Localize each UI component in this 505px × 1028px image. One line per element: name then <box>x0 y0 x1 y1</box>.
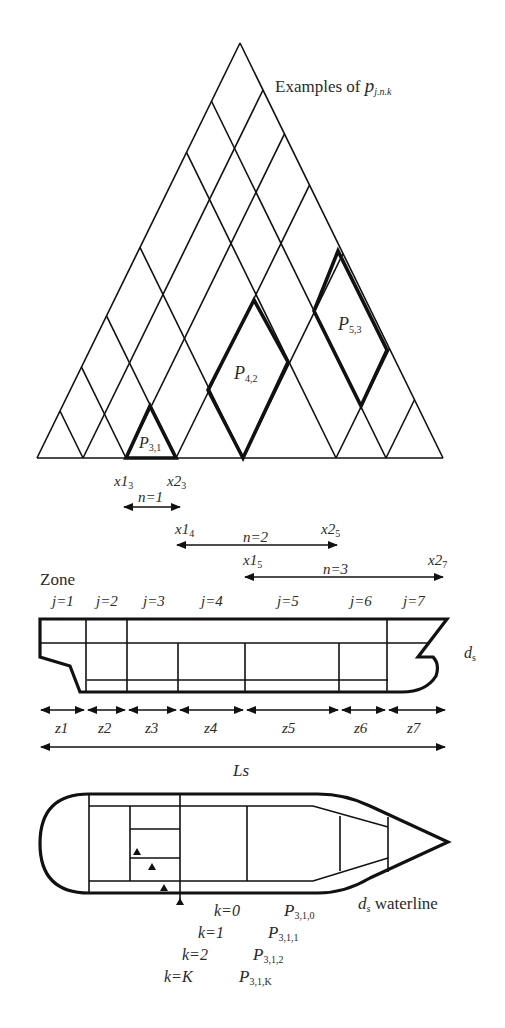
x2-7-label: x27 <box>428 553 447 570</box>
draft-label-side: ds <box>464 645 476 663</box>
ship-plan-view <box>40 794 448 903</box>
z1-label: z1 <box>55 721 68 736</box>
p312-label: P3,1,2 <box>253 946 283 965</box>
n3-label: n=3 <box>323 562 348 577</box>
x2-5-label: x25 <box>321 522 340 539</box>
label-p53: P5,3 <box>338 315 362 335</box>
x1-5-label: x15 <box>243 553 262 570</box>
p311-label: P3,1,1 <box>268 924 298 943</box>
waterline-label: ds waterline <box>358 895 438 914</box>
j3-label: j=3 <box>143 594 165 609</box>
triangle-marker-k1 <box>133 848 141 855</box>
j1-label: j=1 <box>52 594 74 609</box>
damage-penetration-markers <box>133 848 184 905</box>
x1-3-label: x13 <box>114 474 133 491</box>
j6-label: j=6 <box>350 594 372 609</box>
k1-label: k=1 <box>198 925 224 941</box>
z2-label: z2 <box>98 721 111 736</box>
j4-label: j=4 <box>201 594 223 609</box>
j5-label: j=5 <box>277 594 299 609</box>
z5-label: z5 <box>282 721 295 736</box>
j7-label: j=7 <box>403 594 425 609</box>
x2-3-label: x23 <box>167 474 186 491</box>
k2-label: k=2 <box>182 947 208 963</box>
ship-side-profile <box>40 619 447 692</box>
x1-4-label: x14 <box>175 522 194 539</box>
j2-label: j=2 <box>96 594 118 609</box>
k0-label: k=0 <box>214 903 240 919</box>
ship-length-label: Ls <box>233 762 249 779</box>
kK-label: k=K <box>164 969 193 985</box>
triangle-marker-k0 <box>176 898 184 905</box>
n2-label: n=2 <box>243 530 268 545</box>
zone-title: Zone <box>40 571 75 588</box>
label-p42: P4,2 <box>234 364 258 384</box>
p31K-label: P3,1,K <box>239 968 272 987</box>
p310-label: P3,1,0 <box>284 902 314 921</box>
triangle-marker-k2 <box>148 863 156 870</box>
label-p31: P3,1 <box>139 435 161 453</box>
diagram-title: Examples of pj.n.k <box>275 76 391 97</box>
z4-label: z4 <box>204 721 217 736</box>
triangle-marker-k3 <box>160 884 168 891</box>
z6-label: z6 <box>354 721 367 736</box>
probability-triangle <box>0 0 505 470</box>
z3-label: z3 <box>145 721 158 736</box>
z7-label: z7 <box>407 721 420 736</box>
n1-label: n=1 <box>138 490 163 505</box>
